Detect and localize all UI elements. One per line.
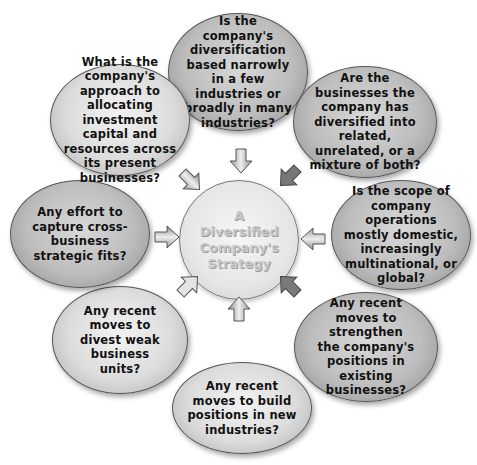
node-bottom-right: Any recent moves to strengthen the compa… <box>294 292 438 402</box>
node-right-text: Is the scope of company operations mostl… <box>342 184 460 286</box>
node-top-text: Is the company's diversification based n… <box>183 14 293 130</box>
arrow-down-left-icon <box>276 164 302 190</box>
arrow-down-icon <box>228 148 254 174</box>
node-top-right: Are the businesses the company has diver… <box>293 66 437 178</box>
node-left-text: Any effort to capture cross-business str… <box>32 205 128 263</box>
arrow-right-icon <box>154 224 180 250</box>
node-left: Any effort to capture cross-business str… <box>10 180 150 288</box>
arrow-up-icon <box>226 296 252 322</box>
node-top-right-text: Are the businesses the company has diver… <box>309 71 421 173</box>
arrow-left-icon <box>300 226 326 252</box>
node-bottom-text: Any recent moves to build positions in n… <box>183 379 301 437</box>
arrow-down-right-icon <box>178 168 204 194</box>
node-bottom-left-text: Any recent moves to divest weak business… <box>75 304 165 377</box>
node-top-left: What is the company's approach to alloca… <box>50 64 190 176</box>
node-bottom-right-text: Any recent moves to strengthen the compa… <box>316 296 416 398</box>
arrow-up-right-icon <box>176 272 202 298</box>
node-top-left-text: What is the company's approach to alloca… <box>58 55 182 186</box>
node-bottom: Any recent moves to build positions in n… <box>172 362 312 454</box>
node-right: Is the scope of company operations mostl… <box>331 180 471 290</box>
node-bottom-left: Any recent moves to divest weak business… <box>52 286 188 394</box>
arrow-up-left-icon <box>276 272 302 298</box>
center-label: A Diversified Company's Strategy <box>199 208 279 272</box>
